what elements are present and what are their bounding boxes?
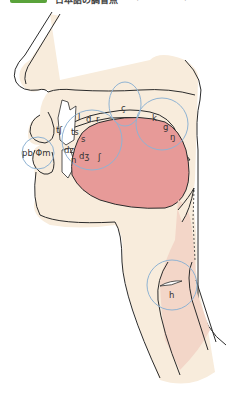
label-k: k — [152, 113, 157, 123]
label-dz: dz — [64, 145, 74, 155]
label-s: s — [81, 134, 86, 144]
label-h: h — [169, 290, 174, 300]
label-r: r — [96, 114, 100, 124]
label-n: n — [71, 155, 76, 165]
vocal-tract-diagram: pb Φm tʃ ts s dz n dʒ ʃ l d r ç k g ŋ h — [0, 0, 239, 404]
label-d: d — [86, 114, 91, 124]
label-ts: ts — [71, 127, 79, 137]
label-l: l — [78, 112, 80, 122]
label-bilabial: pb Φm — [22, 148, 50, 158]
label-g: g — [163, 122, 168, 132]
upper-lip — [30, 112, 54, 143]
label-c-cedilla: ç — [121, 103, 126, 113]
label-dzh: dʒ — [79, 151, 89, 161]
label-ng: ŋ — [170, 132, 175, 142]
